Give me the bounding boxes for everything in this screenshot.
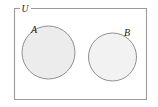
- venn-diagram: U A B: [0, 0, 158, 107]
- set-label-b: B: [124, 27, 130, 38]
- set-circle-b: [89, 33, 137, 81]
- set-circle-a: [22, 26, 75, 79]
- universe-label-U: U: [22, 4, 30, 14]
- set-label-a: A: [30, 24, 38, 35]
- venn-diagram-canvas: U A B: [0, 0, 158, 107]
